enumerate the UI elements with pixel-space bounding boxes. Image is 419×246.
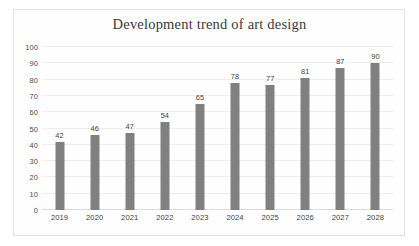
bar-value-label: 47 [126, 122, 134, 131]
bar-value-label: 77 [266, 74, 274, 83]
plot-area: 42464754657877818790 [42, 47, 393, 210]
x-tick-label: 2022 [147, 213, 182, 222]
bar-slot: 90 [358, 47, 393, 210]
y-tick-label: 0 [4, 206, 38, 215]
y-tick-label: 40 [4, 140, 38, 149]
x-axis-tick-labels: 2019202020212022202320242025202620272028 [42, 213, 393, 229]
bar[interactable] [160, 122, 169, 210]
x-tick-label: 2023 [182, 213, 217, 222]
bar-value-label: 78 [231, 72, 239, 81]
bar[interactable] [125, 133, 134, 210]
bar-slot: 77 [253, 47, 288, 210]
x-tick-label: 2028 [358, 213, 393, 222]
bar-slot: 54 [147, 47, 182, 210]
bar-value-label: 87 [336, 57, 344, 66]
bar-slot: 46 [77, 47, 112, 210]
x-tick-label: 2024 [218, 213, 253, 222]
y-tick-label: 60 [4, 108, 38, 117]
bar-value-label: 65 [196, 93, 204, 102]
y-tick-label: 50 [4, 124, 38, 133]
bar-slot: 81 [288, 47, 323, 210]
y-tick-label: 70 [4, 91, 38, 100]
bar[interactable] [55, 142, 64, 210]
y-tick-label: 20 [4, 173, 38, 182]
bar-slot: 78 [218, 47, 253, 210]
bar[interactable] [195, 104, 204, 210]
x-tick-label: 2019 [42, 213, 77, 222]
x-tick-label: 2027 [323, 213, 358, 222]
bar[interactable] [90, 135, 99, 210]
chart-title: Development trend of art design [0, 16, 419, 33]
x-tick-label: 2026 [288, 213, 323, 222]
x-tick-label: 2025 [253, 213, 288, 222]
bar-value-label: 90 [371, 52, 379, 61]
bar[interactable] [371, 63, 380, 210]
y-tick-label: 30 [4, 157, 38, 166]
bar[interactable] [231, 83, 240, 210]
x-tick-label: 2021 [112, 213, 147, 222]
y-tick-label: 100 [4, 43, 38, 52]
bar-value-label: 46 [90, 124, 98, 133]
y-tick-label: 90 [4, 59, 38, 68]
bar-value-label: 81 [301, 67, 309, 76]
y-axis-tick-labels: 0102030405060708090100 [0, 47, 38, 210]
bar-slot: 87 [323, 47, 358, 210]
bar-value-label: 42 [55, 131, 63, 140]
bar[interactable] [336, 68, 345, 210]
bar-slot: 47 [112, 47, 147, 210]
y-tick-label: 80 [4, 75, 38, 84]
chart-figure: Development trend of art design 01020304… [0, 0, 419, 246]
bar[interactable] [266, 85, 275, 211]
bar[interactable] [301, 78, 310, 210]
x-tick-label: 2020 [77, 213, 112, 222]
bar-value-label: 54 [161, 111, 169, 120]
y-tick-label: 10 [4, 189, 38, 198]
bar-slot: 42 [42, 47, 77, 210]
bar-slot: 65 [182, 47, 217, 210]
